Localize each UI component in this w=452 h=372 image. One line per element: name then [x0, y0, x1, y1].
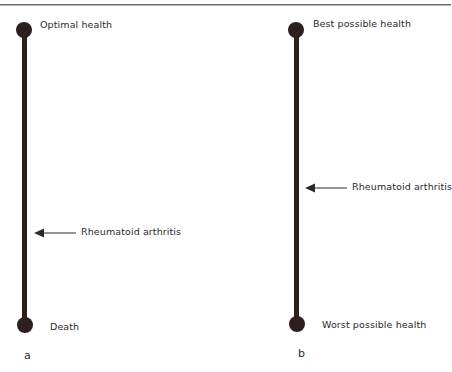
scale-line-b [294, 30, 299, 324]
top-endpoint-b [288, 22, 304, 38]
bottom-endpoint-b [289, 316, 305, 332]
arrow-icon-b [305, 183, 349, 193]
marker-label-b: Rheumatoid arthritis [352, 181, 452, 192]
top-label-a: Optimal health [40, 19, 112, 30]
top-label-b: Best possible health [313, 18, 411, 29]
bottom-endpoint-a [17, 317, 33, 333]
bottom-label-a: Death [50, 321, 79, 332]
panel-letter-a: a [24, 349, 31, 362]
top-endpoint-a [16, 22, 32, 38]
bottom-label-b: Worst possible health [322, 319, 426, 330]
top-rule-shadow [0, 5, 451, 6]
panel-letter-b: b [298, 347, 305, 360]
marker-label-a: Rheumatoid arthritis [81, 226, 181, 237]
arrow-icon-a [34, 228, 78, 238]
scale-line-a [22, 30, 27, 325]
